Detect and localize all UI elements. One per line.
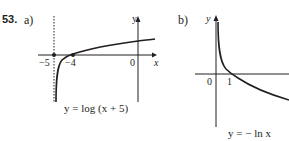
part-a-label: a) (24, 13, 33, 28)
figure-canvas (0, 0, 289, 141)
y-axis-label-a: y (132, 13, 137, 24)
equation-a: y = log (x + 5) (64, 102, 128, 114)
problem-number: 53. (2, 13, 17, 25)
graph-a (38, 16, 157, 102)
tick-zero-b: 0 (207, 76, 212, 87)
graph-b (195, 15, 289, 127)
y-axis-label-b: y (206, 13, 210, 24)
equation-b: y = − ln x (228, 127, 271, 139)
point-minus5 (52, 53, 56, 57)
neg-ln-curve (218, 22, 289, 100)
x-axis-label-a: x (154, 57, 158, 68)
tick-minus5: −5 (39, 57, 50, 68)
log-curve (56, 39, 155, 102)
tick-one-b: 1 (227, 76, 232, 87)
part-b-label: b) (178, 13, 188, 28)
tick-minus4: −4 (65, 57, 76, 68)
y-axis-arrow-icon (214, 15, 219, 21)
tick-zero-a: 0 (130, 57, 135, 68)
